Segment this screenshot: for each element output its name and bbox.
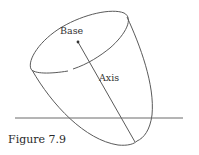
axis-line [78, 42, 135, 142]
axis-label: Axis [99, 72, 119, 83]
base-center-dot [77, 41, 80, 44]
figure-7-9: Base Axis Figure 7.9 [0, 0, 199, 155]
base-label: Base [60, 25, 83, 36]
right-generatrix [127, 17, 152, 141]
figure-caption: Figure 7.9 [8, 133, 66, 146]
